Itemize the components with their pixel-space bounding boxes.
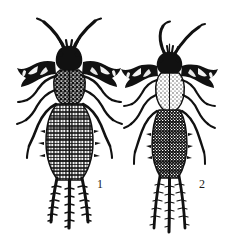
figure-2-thorax <box>156 73 185 111</box>
figure-label-1: 1 <box>97 178 103 190</box>
figure-plate: 1 2 <box>0 0 237 244</box>
figure-1-thorax <box>54 70 86 104</box>
insect-plate-drawing <box>0 0 237 244</box>
figure-label-2: 2 <box>199 178 205 190</box>
